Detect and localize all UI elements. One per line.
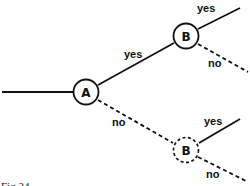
diagram-svg: A B B yes no yes no yes no Fig 24 <box>0 0 250 186</box>
node-b-lower: B <box>174 138 199 163</box>
node-a: A <box>74 80 99 105</box>
node-a-label: A <box>81 86 91 100</box>
node-b-lower-label: B <box>181 144 190 158</box>
edge-label-a-no: no <box>112 116 126 128</box>
edge-label-b-upper-yes: yes <box>197 2 215 14</box>
edge-label-b-lower-no: no <box>206 168 220 180</box>
figure-caption: Fig 24 <box>1 180 30 186</box>
node-b-upper: B <box>174 24 199 49</box>
edge-b-upper-no <box>198 44 248 72</box>
node-b-upper-label: B <box>181 30 190 44</box>
edge-label-a-yes: yes <box>124 48 142 60</box>
edge-label-b-lower-yes: yes <box>204 115 222 127</box>
edge-a-to-b-lower <box>98 100 173 143</box>
edge-label-b-upper-no: no <box>208 57 222 69</box>
decision-tree-diagram: A B B yes no yes no yes no Fig 24 <box>0 0 250 186</box>
